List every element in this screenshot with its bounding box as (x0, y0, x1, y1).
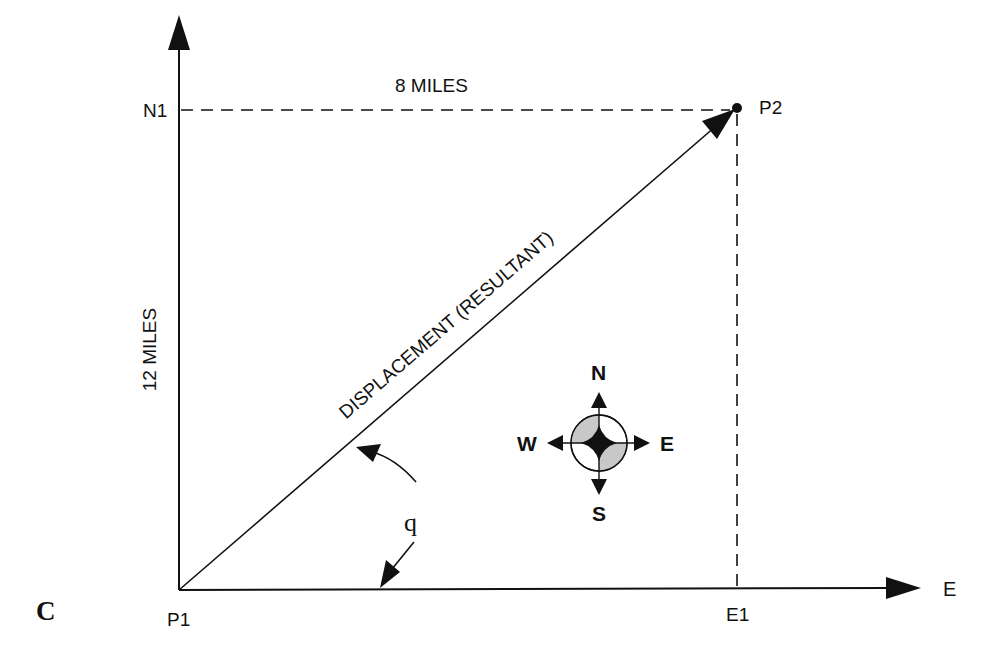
north-distance-label: 12 MILES (140, 300, 159, 400)
p1-label: P1 (167, 610, 190, 629)
p2-label: P2 (759, 98, 782, 117)
e1-label: E1 (726, 605, 749, 624)
angle-arrow-lower (380, 542, 414, 588)
compass-north-label: N (591, 362, 606, 383)
compass-south-label: S (592, 503, 606, 524)
compass-east-label: E (660, 433, 674, 454)
east-axis (179, 577, 921, 599)
compass-east-arrow (634, 435, 650, 451)
east-distance-label: 8 MILES (395, 76, 468, 95)
n1-label: N1 (143, 101, 167, 120)
compass-rose (547, 392, 650, 495)
angle-arrow-upper (356, 444, 416, 482)
compass-north-arrow (591, 392, 607, 408)
displacement-vector (179, 103, 742, 590)
panel-label: C (36, 596, 56, 627)
compass-west-arrow (547, 435, 563, 451)
north-axis (168, 15, 190, 590)
compass-south-arrow (591, 479, 607, 495)
compass-west-label: W (517, 433, 537, 454)
east-axis-label: E (943, 579, 956, 599)
p2-point (732, 103, 742, 113)
angle-symbol: q (404, 510, 417, 536)
